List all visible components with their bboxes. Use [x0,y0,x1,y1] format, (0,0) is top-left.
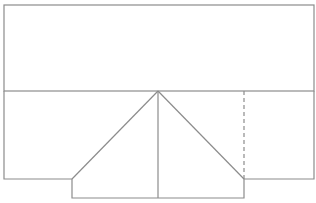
lower-panel-outline [4,91,314,198]
fold-line-left [72,91,158,179]
top-rectangle [4,5,314,91]
fold-line-right [158,91,244,179]
fold-diagram [0,0,316,203]
